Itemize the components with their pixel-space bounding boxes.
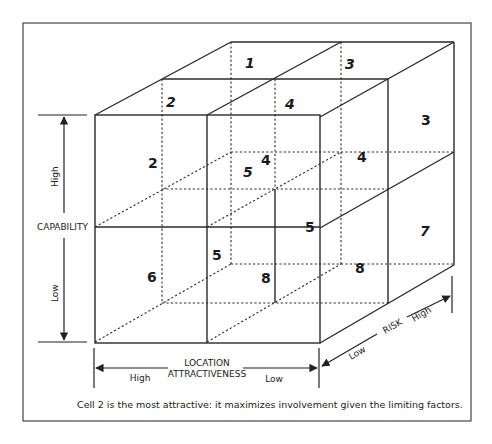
location-high-label: High (130, 373, 151, 383)
risk-axis: RISK High Low (322, 276, 452, 366)
location-label-line2: ATTRACTIVENESS (168, 369, 247, 379)
cell-label: 3 (345, 56, 355, 72)
figure-frame (23, 23, 471, 421)
location-label-line1: LOCATION (184, 358, 230, 368)
capability-axis: High Low CAPABILITY (37, 115, 88, 342)
cell-label: 5 (212, 247, 222, 263)
location-attractiveness-axis: LOCATION ATTRACTIVENESS High Low (94, 348, 319, 388)
capability-axis-label: CAPABILITY (37, 222, 88, 232)
cell-label: 6 (147, 269, 157, 285)
capability-low-label: Low (50, 284, 60, 302)
cell-label: 7 (420, 223, 430, 239)
cell-label: 4 (261, 152, 271, 168)
cell-label: 1 (245, 55, 255, 71)
cell-label: 2 (166, 94, 176, 110)
capability-high-label: High (50, 166, 60, 187)
three-dimensional-matrix-figure: 1 3 2 4 2 4 5 4 3 5 6 5 8 8 7 High Low C… (0, 0, 492, 444)
cell-label: 5 (305, 219, 315, 235)
risk-low-label: Low (347, 344, 367, 362)
cell-label: 4 (357, 149, 367, 165)
cell-label: 4 (284, 96, 295, 112)
location-low-label: Low (265, 374, 283, 384)
risk-high-label: High (410, 305, 433, 324)
cell-label: 3 (421, 112, 431, 128)
cell-label: 8 (355, 260, 365, 276)
risk-axis-label: RISK (381, 316, 405, 335)
cube (95, 42, 454, 343)
cell-label: 2 (148, 155, 158, 171)
figure-caption: Cell 2 is the most attractive: it maximi… (77, 399, 463, 410)
cell-label: 8 (261, 270, 271, 286)
cell-label: 5 (243, 164, 253, 180)
